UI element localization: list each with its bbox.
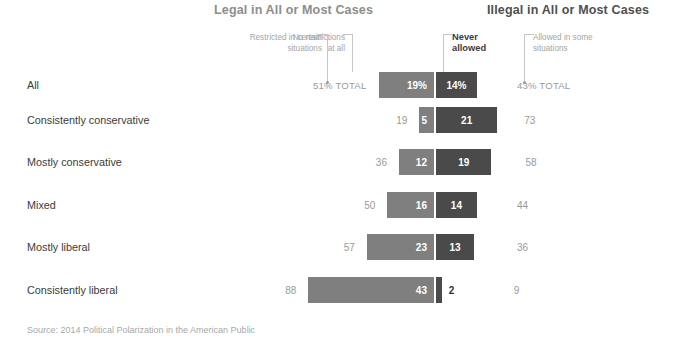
- row-total-legal: 51% TOTAL: [247, 80, 367, 91]
- row-total-illegal: 9: [514, 285, 520, 296]
- bar-never-allowed[interactable]: 19: [436, 149, 491, 175]
- bar-value: 23: [416, 242, 434, 253]
- row-bars: 1614: [387, 192, 477, 218]
- bar-value: 12: [416, 157, 434, 168]
- bar-no-restrictions[interactable]: 16: [387, 192, 434, 218]
- chart-row: Consistently liberal432889: [0, 275, 679, 305]
- chart-rows: All19%14%51% TOTAL43% TOTALConsistently …: [0, 0, 679, 318]
- row-total-legal: 88: [176, 285, 296, 296]
- bar-never-allowed[interactable]: 21: [436, 107, 497, 133]
- bar-value: 19%: [407, 80, 434, 91]
- row-label: Mostly conservative: [27, 156, 122, 168]
- row-bars: 521: [419, 107, 497, 133]
- row-bars: 2313: [367, 234, 474, 260]
- bar-no-restrictions[interactable]: 5: [419, 107, 434, 133]
- row-total-legal: 57: [235, 242, 355, 253]
- chart-row: Consistently conservative5211973: [0, 105, 679, 135]
- bar-value: 14: [451, 200, 462, 211]
- bar-no-restrictions[interactable]: 23: [367, 234, 434, 260]
- bar-value: 43: [416, 285, 434, 296]
- chart-row: Mixed16145044: [0, 190, 679, 220]
- row-label: Mostly liberal: [27, 241, 90, 253]
- row-label: Consistently liberal: [27, 284, 118, 296]
- chart-row: Mostly conservative12193658: [0, 147, 679, 177]
- row-label: Mixed: [27, 199, 56, 211]
- bar-value: 19: [458, 157, 469, 168]
- bar-value: 13: [449, 242, 460, 253]
- source-note: Source: 2014 Political Polarization in t…: [27, 325, 255, 335]
- bar-never-allowed[interactable]: [436, 277, 442, 303]
- bar-value: 14%: [446, 80, 466, 91]
- chart-row: All19%14%51% TOTAL43% TOTAL: [0, 70, 679, 100]
- row-total-illegal: 73: [524, 115, 535, 126]
- row-bars: 432: [308, 277, 441, 303]
- bar-never-allowed[interactable]: 14: [436, 192, 477, 218]
- bar-value: 21: [461, 115, 472, 126]
- row-total-illegal: 44: [517, 200, 528, 211]
- bar-value: 5: [421, 115, 434, 126]
- bar-never-allowed[interactable]: 13: [436, 234, 474, 260]
- chart-row: Mostly liberal23135736: [0, 232, 679, 262]
- bar-value: 16: [416, 200, 434, 211]
- row-total-legal: 50: [255, 200, 375, 211]
- row-total-illegal: 43% TOTAL: [517, 80, 571, 91]
- row-label: All: [27, 79, 39, 91]
- row-total-legal: 36: [267, 157, 387, 168]
- row-bars: 1219: [399, 149, 492, 175]
- row-label: Consistently conservative: [27, 114, 149, 126]
- bar-no-restrictions[interactable]: 43: [308, 277, 434, 303]
- row-bars: 19%14%: [379, 72, 477, 98]
- row-total-legal: 19: [287, 115, 407, 126]
- bar-never-allowed[interactable]: 14%: [436, 72, 477, 98]
- bar-no-restrictions[interactable]: 19%: [379, 72, 434, 98]
- row-total-illegal: 36: [517, 242, 528, 253]
- row-total-illegal: 58: [525, 157, 536, 168]
- bar-value: 2: [449, 285, 455, 296]
- bar-no-restrictions[interactable]: 12: [399, 149, 434, 175]
